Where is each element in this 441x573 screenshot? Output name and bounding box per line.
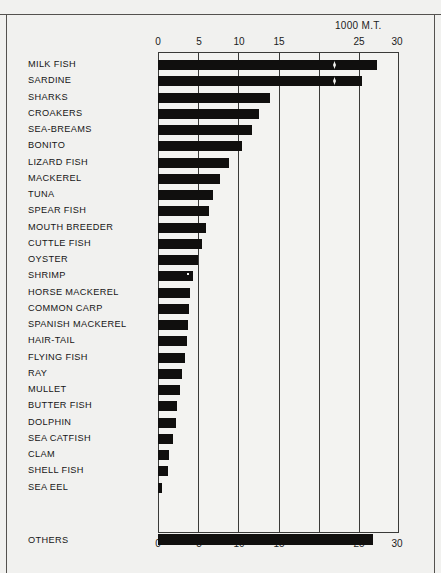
bar xyxy=(158,288,190,298)
category-label: MACKEREL xyxy=(28,173,81,183)
category-label: BUTTER FISH xyxy=(28,400,92,410)
category-label: FLYING FISH xyxy=(28,352,88,362)
category-label: CROAKERS xyxy=(28,108,82,118)
bar xyxy=(158,60,377,70)
category-label: SHRIMP xyxy=(28,270,66,280)
fisheries-landings-bar-chart: 1000 M.T. 0510152530 0510152530 MILK FIS… xyxy=(0,0,441,573)
category-label: SEA-BREAMS xyxy=(28,124,92,134)
category-label: SPEAR FISH xyxy=(28,205,86,215)
bar xyxy=(158,450,169,460)
bar xyxy=(158,353,185,363)
category-label: MULLET xyxy=(28,384,66,394)
category-label: BONITO xyxy=(28,140,65,150)
top-tick-label: 15 xyxy=(273,36,284,47)
category-label: COMMON CARP xyxy=(28,303,103,313)
category-label: MOUTH BREEDER xyxy=(28,222,113,232)
bar xyxy=(158,223,206,233)
frame-right-rule xyxy=(434,14,435,573)
top-axis-tick-labels: 0510152530 xyxy=(0,36,441,49)
axis-break-mark xyxy=(331,76,338,86)
category-label: TUNA xyxy=(28,189,54,199)
top-tick-label: 25 xyxy=(353,36,364,47)
category-label-column: MILK FISHSARDINESHARKSCROAKERSSEA-BREAMS… xyxy=(0,52,152,520)
bar xyxy=(158,141,242,151)
bar xyxy=(158,385,180,395)
category-label: HORSE MACKEREL xyxy=(28,287,119,297)
bar xyxy=(158,174,220,184)
category-label: LIZARD FISH xyxy=(28,157,88,167)
frame-top-rule xyxy=(0,14,441,15)
top-tick-label: 10 xyxy=(233,36,244,47)
bar-series xyxy=(158,52,399,533)
top-tick-label: 5 xyxy=(196,36,202,47)
bar xyxy=(158,336,187,346)
bar xyxy=(158,190,213,200)
bar xyxy=(158,483,162,493)
bar xyxy=(158,466,168,476)
category-label: MILK FISH xyxy=(28,59,76,69)
category-label: HAIR-TAIL xyxy=(28,335,75,345)
bar xyxy=(158,158,229,168)
bottom-tick-label: 30 xyxy=(391,538,402,549)
category-label: SEA EEL xyxy=(28,482,68,492)
bar xyxy=(158,255,198,265)
category-label: CUTTLE FISH xyxy=(28,238,91,248)
category-label: DOLPHIN xyxy=(28,417,71,427)
unit-caption: 1000 M.T. xyxy=(335,20,382,31)
bar xyxy=(158,125,252,135)
category-label: SARDINE xyxy=(28,75,71,85)
bar-others xyxy=(158,534,373,545)
category-label: RAY xyxy=(28,368,47,378)
bar xyxy=(158,93,270,103)
bar xyxy=(158,239,202,249)
bar xyxy=(158,320,188,330)
bar xyxy=(158,434,173,444)
bar xyxy=(158,206,209,216)
bar xyxy=(158,369,182,379)
bar xyxy=(158,109,259,119)
bar xyxy=(158,401,177,411)
print-artifact-speck xyxy=(187,273,189,275)
category-label: SEA CATFISH xyxy=(28,433,91,443)
axis-break-mark xyxy=(331,60,338,70)
category-label: CLAM xyxy=(28,449,55,459)
bar xyxy=(158,304,189,314)
top-tick-label: 30 xyxy=(391,36,402,47)
bar xyxy=(158,418,176,428)
category-label: SPANISH MACKEREL xyxy=(28,319,126,329)
top-tick-label: 0 xyxy=(155,36,161,47)
category-label: OTHERS xyxy=(28,535,68,545)
category-label: SHELL FISH xyxy=(28,465,84,475)
category-label: SHARKS xyxy=(28,92,68,102)
category-label: OYSTER xyxy=(28,254,68,264)
